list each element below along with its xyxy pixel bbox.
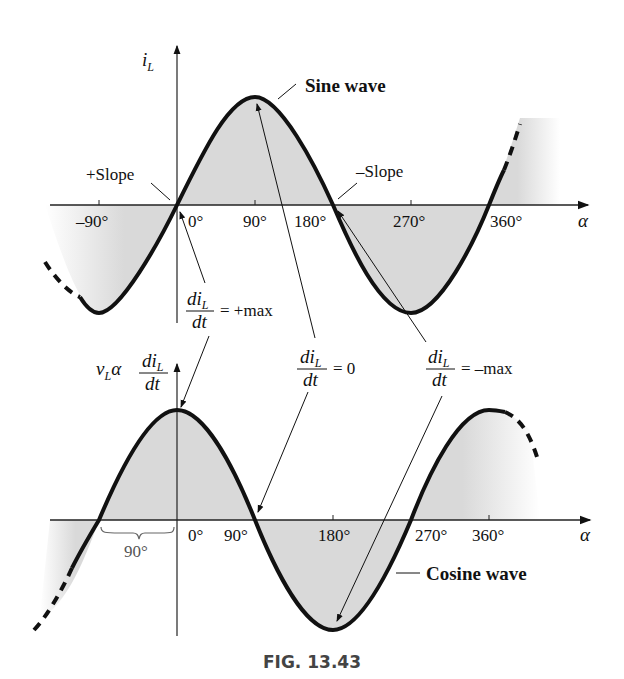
sine-wave-label: Sine wave (305, 75, 386, 96)
svg-text:= +max: = +max (220, 301, 273, 320)
svg-text:diL: diL (300, 346, 322, 370)
tick-label: 0° (188, 212, 203, 231)
svg-text:diL: diL (142, 350, 164, 374)
svg-text:dt: dt (145, 373, 161, 394)
tick-label: 270° (415, 526, 447, 545)
tick-label: 180° (318, 526, 350, 545)
tick-label: 360° (490, 212, 522, 231)
phase-label: 90° (124, 542, 148, 561)
svg-text:= 0: = 0 (333, 359, 355, 378)
phase-brace (101, 527, 174, 539)
figure-13-43: iL Sine wave +Slope –Slope –90° 0° 90° 1… (0, 0, 624, 679)
deriv-pos-max: diL dt = +max (180, 212, 273, 407)
figure-caption: FIG. 13.43 (263, 652, 361, 672)
tick-label: 180° (294, 212, 326, 231)
tick-label: 0° (188, 526, 203, 545)
neg-slope-label: –Slope (355, 162, 403, 181)
cosine-plot: 90° vLα diL dt 0° 90° 180° 270° 360° α C… (34, 350, 591, 636)
svg-text:dt: dt (192, 311, 208, 332)
tick-label: 270° (393, 212, 425, 231)
pos-slope-label: +Slope (86, 165, 134, 184)
sine-plot: iL Sine wave +Slope –Slope –90° 0° 90° 1… (45, 46, 589, 323)
x-axis-label: α (580, 524, 591, 545)
svg-text:dt: dt (303, 369, 319, 390)
x-axis-label: α (578, 210, 589, 231)
tick-label: 90° (224, 526, 248, 545)
svg-text:diL: diL (428, 346, 450, 370)
cosine-wave-label: Cosine wave (426, 563, 527, 584)
svg-text:diL: diL (187, 288, 209, 312)
tick-label: –90° (75, 212, 108, 231)
y-axis-label: iL (142, 49, 154, 74)
tick-label: 90° (243, 212, 267, 231)
svg-text:= –max: = –max (461, 359, 513, 378)
tick-label: 360° (472, 526, 504, 545)
svg-text:dt: dt (432, 369, 448, 390)
y-axis-label: vLα (96, 358, 122, 383)
